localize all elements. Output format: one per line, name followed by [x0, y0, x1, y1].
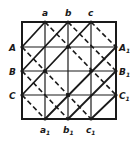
label-top-a: a — [42, 8, 48, 18]
label-left-B: B — [9, 67, 16, 77]
label-top-b: b — [65, 8, 72, 18]
label-right-A1: A1 — [118, 43, 130, 54]
dot-left-B — [20, 69, 23, 72]
label-bottom-b1: b1 — [63, 125, 74, 136]
dot-bottom-a1 — [43, 117, 46, 120]
dot-top-a — [43, 20, 46, 23]
dot-left-A — [20, 45, 23, 48]
dot-right-A1 — [114, 45, 117, 48]
dot-b-C — [66, 93, 70, 97]
dot-a-B — [43, 69, 47, 73]
dot-right-B1 — [114, 69, 117, 72]
dashed-c-A1 — [91, 22, 116, 47]
grid-lines — [22, 22, 116, 119]
dot-bottom-c1 — [89, 117, 92, 120]
solid-A-a — [22, 22, 45, 47]
dot-right-C1 — [114, 93, 117, 96]
dot-c-B — [89, 69, 93, 73]
label-left-C: C — [9, 91, 16, 101]
dashed-C-a1 — [22, 95, 45, 119]
dot-left-C — [20, 93, 23, 96]
solid-c1-C1 — [91, 95, 116, 119]
label-top-c: c — [88, 8, 94, 18]
label-bottom-a1: a1 — [40, 125, 50, 136]
dot-b-A — [66, 45, 70, 49]
label-left-A: A — [8, 43, 16, 53]
label-right-B1: B1 — [119, 67, 130, 78]
grid-diagonal-diagram: a b c a1 b1 c1 A B C A1 B1 C1 — [0, 0, 139, 142]
dot-bottom-b1 — [66, 117, 69, 120]
label-bottom-c1: c1 — [86, 125, 96, 136]
dot-top-c — [89, 20, 92, 23]
label-right-C1: C1 — [119, 91, 130, 102]
dot-top-b — [66, 20, 69, 23]
